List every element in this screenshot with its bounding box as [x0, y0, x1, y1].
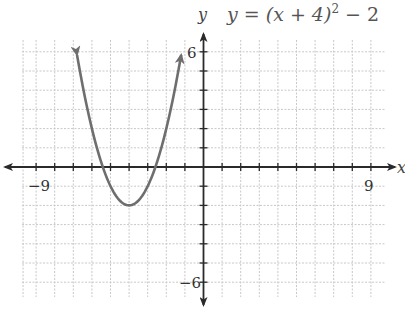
equation-label: y = (x + 4)2 − 2 — [226, 2, 379, 25]
x-axis-label: x — [397, 158, 405, 177]
parabola-graph: −9 9 6 −6 x y y = (x + 4)2 − 2 — [0, 0, 405, 313]
y-max-label: 6 — [187, 44, 197, 62]
x-min-label: −9 — [28, 177, 50, 195]
axes — [5, 34, 395, 305]
x-max-label: 9 — [364, 177, 374, 195]
parabola-curve — [77, 55, 181, 206]
y-min-label: −6 — [179, 274, 201, 292]
y-axis-label: y — [197, 5, 208, 24]
